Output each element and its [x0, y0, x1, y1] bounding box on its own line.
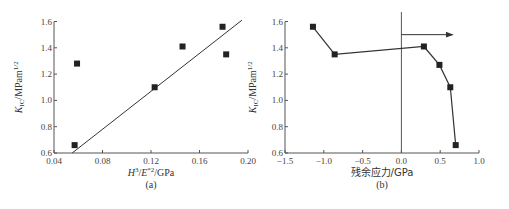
y-tick-label: 1.2: [272, 69, 283, 79]
x-axis-label: H3/E*2/GPa: [127, 166, 175, 178]
y-tick-label: 1.4: [272, 43, 284, 53]
panel-caption: (a): [145, 179, 156, 191]
y-tick-label: 1.0: [41, 95, 53, 105]
data-line: [313, 27, 456, 145]
figure: 0.60.81.01.21.41.60.040.080.120.160.20KI…: [0, 0, 509, 209]
y-tick-label: 0.8: [272, 122, 284, 132]
y-axis-label: KIC/MPam1/2: [12, 61, 26, 115]
x-tick-label: 0.16: [192, 156, 208, 166]
y-tick-label: 0.8: [41, 122, 53, 132]
data-point-marker: [180, 43, 186, 49]
x-tick-label: 0.0: [396, 156, 408, 166]
data-point-marker: [332, 51, 338, 57]
x-tick-label: 0.5: [435, 156, 447, 166]
data-point-marker: [421, 43, 427, 49]
y-tick-label: 1.6: [41, 17, 53, 27]
data-point-marker: [223, 51, 229, 57]
x-axis-label: 残余应力/GPa: [351, 166, 414, 178]
y-axis-label: KIC/MPam1/2: [246, 61, 260, 115]
y-tick-label: 1.0: [272, 95, 284, 105]
data-point-marker: [447, 84, 453, 90]
y-tick-label: 1.2: [41, 69, 52, 79]
panel-caption: (b): [376, 179, 388, 191]
data-point-marker: [220, 24, 226, 30]
data-point-marker: [453, 142, 459, 148]
data-point-marker: [72, 142, 78, 148]
y-tick-label: 1.6: [272, 17, 284, 27]
chart-panel-a: 0.60.81.01.21.41.60.040.080.120.160.20KI…: [12, 17, 256, 192]
y-tick-label: 1.4: [41, 43, 53, 53]
data-point-marker: [152, 84, 158, 90]
x-tick-label: 0.20: [240, 156, 256, 166]
data-point-marker: [436, 62, 442, 68]
x-tick-label: −1.0: [316, 156, 333, 166]
data-point-marker: [310, 24, 316, 30]
x-tick-label: 0.08: [95, 156, 111, 166]
x-tick-label: 1.0: [473, 156, 485, 166]
x-tick-label: −0.5: [354, 156, 371, 166]
x-tick-label: −1.5: [277, 156, 294, 166]
x-tick-label: 0.12: [143, 156, 159, 166]
data-point-marker: [74, 61, 80, 67]
chart-panel-b: 0.60.81.01.21.41.6−1.5−1.0−0.50.00.51.0K…: [246, 12, 485, 191]
x-tick-label: 0.04: [46, 156, 62, 166]
